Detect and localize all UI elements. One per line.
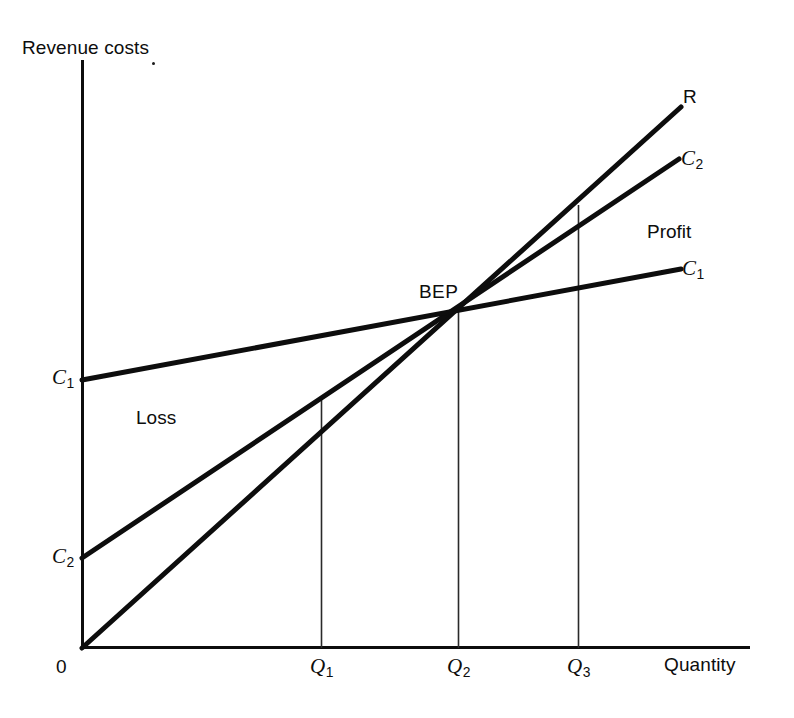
series-end-label-c2: C2 bbox=[681, 148, 703, 169]
y-intercept-c1-base: C bbox=[52, 365, 66, 389]
x-tick-q3-base: Q bbox=[567, 654, 582, 678]
x-tick-q2-subscript: 2 bbox=[462, 664, 470, 680]
cost-line-c1 bbox=[82, 269, 681, 380]
series-end-c2-subscript: 2 bbox=[695, 156, 703, 172]
x-tick-q2: Q2 bbox=[447, 656, 470, 677]
profit-region-label: Profit bbox=[647, 222, 691, 241]
x-tick-q3: Q3 bbox=[567, 656, 590, 677]
chart-canvas bbox=[0, 0, 794, 718]
break-even-chart: Revenue costs Quantity 0 Q1 Q2 Q3 C1 C2 … bbox=[0, 0, 794, 718]
y-intercept-label-c2: C2 bbox=[52, 546, 74, 567]
y-intercept-c2-base: C bbox=[52, 544, 66, 568]
series-end-c1-subscript: 1 bbox=[696, 266, 704, 282]
ink-speck bbox=[152, 62, 155, 65]
bep-annotation: BEP bbox=[419, 282, 458, 301]
x-tick-q2-base: Q bbox=[447, 654, 462, 678]
revenue-line-r bbox=[82, 107, 681, 648]
x-tick-q1: Q1 bbox=[310, 656, 333, 677]
series-end-label-r: R bbox=[683, 87, 697, 106]
origin-label: 0 bbox=[56, 657, 67, 676]
x-tick-q1-base: Q bbox=[310, 654, 325, 678]
y-intercept-c1-subscript: 1 bbox=[66, 375, 74, 391]
series-end-c1-base: C bbox=[682, 256, 696, 280]
x-tick-q1-subscript: 1 bbox=[325, 664, 333, 680]
x-axis-title: Quantity bbox=[664, 655, 736, 674]
cost-line-c2 bbox=[82, 159, 679, 558]
series-end-label-c1: C1 bbox=[682, 258, 704, 279]
x-tick-q3-subscript: 3 bbox=[582, 664, 590, 680]
y-intercept-label-c1: C1 bbox=[52, 367, 74, 388]
y-axis-title: Revenue costs bbox=[22, 38, 149, 57]
y-intercept-c2-subscript: 2 bbox=[66, 554, 74, 570]
series-end-c2-base: C bbox=[681, 146, 695, 170]
loss-region-label: Loss bbox=[136, 408, 176, 427]
